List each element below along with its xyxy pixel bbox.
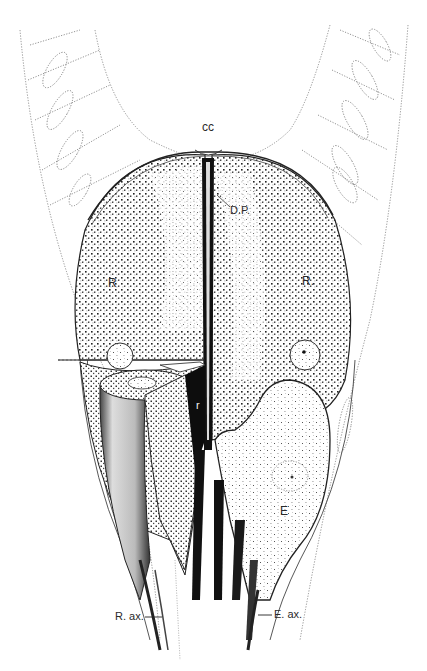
label-r-small: r <box>196 400 200 411</box>
label-r-right: R. <box>302 275 314 287</box>
label-cc: cc <box>202 121 214 133</box>
label-r-left: R <box>108 277 117 289</box>
nucleus-left <box>107 343 133 369</box>
label-e-ax: E. ax. <box>274 609 302 620</box>
nucleus-right <box>290 340 320 370</box>
anatomical-illustration <box>0 0 427 671</box>
label-e: E <box>280 505 288 517</box>
label-r-ax: R. ax. <box>115 611 144 622</box>
label-dp: D.P. <box>230 205 250 216</box>
